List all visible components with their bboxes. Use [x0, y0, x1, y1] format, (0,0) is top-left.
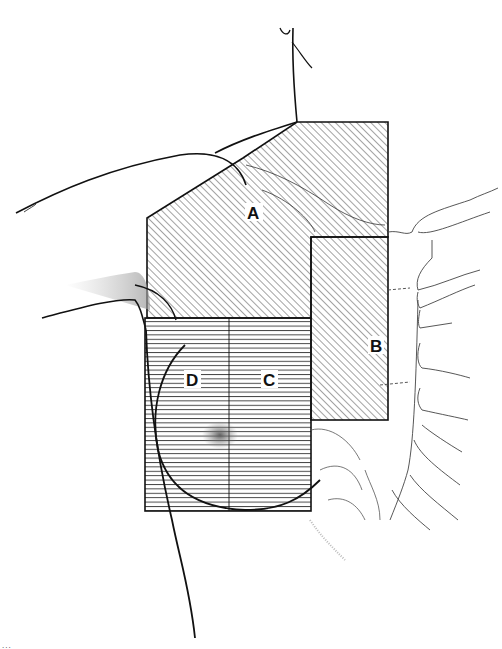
anatomical-figure: A B C D: [0, 0, 502, 649]
svg-text:C: C: [263, 371, 275, 390]
svg-text:B: B: [370, 337, 382, 356]
svg-text:D: D: [186, 371, 198, 390]
figure-caption-cropped: ...: [2, 641, 12, 649]
left-ribs: [310, 429, 380, 560]
label-b: B: [368, 336, 384, 356]
neck-outline: [280, 28, 312, 122]
label-a: A: [245, 203, 263, 223]
label-c: C: [261, 370, 278, 390]
region-cd: [145, 318, 311, 511]
svg-text:A: A: [247, 204, 259, 223]
nipple-areola: [202, 421, 238, 449]
label-d: D: [184, 370, 201, 390]
region-b: [311, 237, 388, 420]
rib-cage: [380, 188, 498, 530]
